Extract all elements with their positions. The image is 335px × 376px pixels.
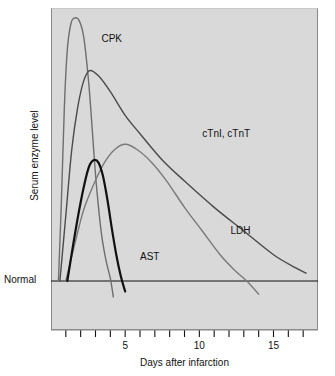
curve-label-ldh: LDH (230, 225, 250, 236)
y-axis-label: Serum enzyme level (29, 76, 40, 236)
x-tick-label: 15 (268, 340, 279, 351)
curve-label-ctni-ctnt: cTnI, cTnT (202, 128, 250, 139)
enzyme-kinetics-figure: Serum enzyme level Normal Days after inf… (0, 0, 335, 376)
x-axis-label: Days after infarction (51, 357, 318, 368)
curve-cpk (58, 18, 113, 297)
x-tick-label: 5 (122, 340, 128, 351)
normal-baseline-label: Normal (4, 274, 36, 285)
enzyme-curves (58, 18, 306, 297)
curve-label-ast: AST (140, 251, 159, 262)
curve-label-cpk: CPK (101, 33, 122, 44)
chart-svg (0, 0, 335, 376)
x-axis-ticks (66, 330, 303, 337)
x-tick-label: 10 (194, 340, 205, 351)
curve-ctni-ctnt (60, 70, 306, 281)
